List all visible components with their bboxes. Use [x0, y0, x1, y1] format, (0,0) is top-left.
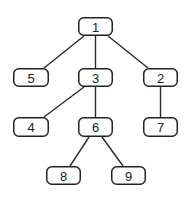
tree-node-1: 1: [79, 18, 113, 36]
node-label: 4: [27, 120, 34, 135]
tree-node-9: 9: [112, 167, 146, 185]
node-label: 7: [157, 120, 164, 135]
tree-node-7: 7: [144, 118, 178, 137]
node-label: 8: [60, 169, 67, 184]
edge-1-to-2: [108, 36, 148, 68]
tree-node-5: 5: [14, 69, 49, 87]
edge-3-to-4: [44, 87, 84, 117]
edge-1-to-5: [44, 36, 84, 68]
edge-6-to-9: [102, 137, 123, 166]
tree-diagram: 153246789: [0, 0, 194, 200]
tree-node-4: 4: [14, 118, 49, 137]
node-label: 9: [125, 169, 132, 184]
tree-node-3: 3: [79, 69, 113, 87]
node-label: 2: [157, 71, 164, 86]
node-label: 5: [27, 71, 34, 86]
tree-node-6: 6: [79, 118, 113, 137]
tree-edges: [44, 36, 161, 166]
edge-6-to-8: [70, 137, 89, 166]
tree-node-2: 2: [144, 69, 178, 87]
node-label: 6: [92, 120, 99, 135]
node-label: 1: [92, 20, 99, 35]
tree-node-8: 8: [47, 167, 81, 185]
node-label: 3: [92, 71, 99, 86]
